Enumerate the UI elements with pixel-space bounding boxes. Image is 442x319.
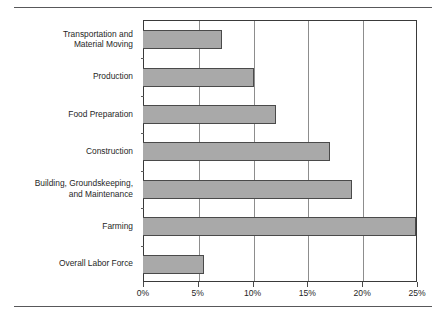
y-axis-label: Farming <box>8 221 133 232</box>
bar-series <box>144 21 416 281</box>
bar-row <box>144 96 416 133</box>
bar <box>143 255 204 274</box>
y-axis-label: Transportation and Material Moving <box>8 28 133 49</box>
bar <box>143 30 222 49</box>
bar-row <box>144 58 416 95</box>
bar-row <box>144 246 416 283</box>
bar <box>143 217 416 236</box>
bar-row <box>144 133 416 170</box>
chart-figure: Transportation and Material MovingProduc… <box>0 0 442 319</box>
x-axis-tick-label: 15% <box>299 288 316 299</box>
y-axis-label: Production <box>8 71 133 82</box>
bar-row <box>144 208 416 245</box>
x-axis-tick-label: 0% <box>137 288 149 299</box>
y-axis-label: Food Preparation <box>8 108 133 119</box>
x-axis-tick <box>362 282 363 287</box>
x-axis-tick <box>198 282 199 287</box>
x-axis-tick-labels: 0%5%10%15%20%25% <box>143 288 418 302</box>
y-axis-label: Construction <box>8 146 133 157</box>
x-axis-tick <box>307 282 308 287</box>
bar-row <box>144 21 416 58</box>
x-axis-ticks <box>143 282 418 287</box>
bar <box>143 180 352 199</box>
x-axis-tick-label: 20% <box>354 288 371 299</box>
x-axis-tick-label: 5% <box>192 288 204 299</box>
x-axis-tick-label: 10% <box>244 288 261 299</box>
y-axis-labels: Transportation and Material MovingProduc… <box>8 20 139 282</box>
y-axis-label: Overall Labor Force <box>8 258 133 269</box>
bar-row <box>144 171 416 208</box>
plot-area <box>143 20 417 282</box>
y-axis-label: Building, Groundskeeping, and Maintenanc… <box>8 178 133 199</box>
x-axis-tick-label: 25% <box>408 288 425 299</box>
top-rule <box>14 7 432 8</box>
bottom-rule <box>14 306 432 307</box>
x-axis-tick <box>417 282 418 287</box>
bar <box>143 142 330 161</box>
x-axis-tick <box>253 282 254 287</box>
bar <box>143 105 276 124</box>
x-axis-tick <box>143 282 144 287</box>
bar <box>143 68 254 87</box>
